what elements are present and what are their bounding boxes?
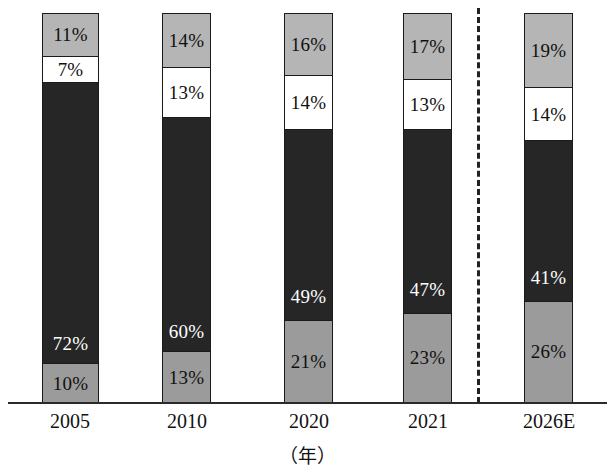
bar-segment-label: 47%: [410, 280, 445, 299]
bar-column-2010[interactable]: 14% 13% 60% 13%: [162, 13, 211, 402]
bar-segment-label: 21%: [291, 352, 326, 371]
bar-segment-label: 17%: [410, 37, 445, 56]
bar-segment-label: 41%: [531, 268, 566, 287]
bar-segment-label: 13%: [169, 368, 204, 387]
bar-segment-2026E-top[interactable]: 19%: [524, 13, 573, 87]
bar-segment-2010-lower-mid[interactable]: 60%: [162, 118, 211, 351]
bar-segment-2010-bottom[interactable]: 13%: [162, 351, 211, 402]
bar-segment-2020-top[interactable]: 16%: [284, 13, 333, 75]
bar-segment-2021-upper-mid[interactable]: 13%: [403, 79, 452, 130]
plot-area: 11% 7% 72% 10% 14% 13% 60% 13%: [0, 0, 615, 403]
bar-column-2026E[interactable]: 19% 14% 41% 26%: [524, 13, 573, 402]
bar-column-2005[interactable]: 11% 7% 72% 10%: [42, 13, 99, 402]
bar-segment-label: 16%: [291, 35, 326, 54]
bar-column-2021[interactable]: 17% 13% 47% 23%: [403, 13, 452, 402]
bar-segment-2020-upper-mid[interactable]: 14%: [284, 75, 333, 129]
bar-segment-2026E-lower-mid[interactable]: 41%: [524, 141, 573, 300]
bar-segment-2005-bottom[interactable]: 10%: [42, 363, 99, 402]
bar-segment-2021-lower-mid[interactable]: 47%: [403, 130, 452, 313]
bar-segment-label: 11%: [53, 25, 88, 44]
bar-segment-label: 49%: [291, 287, 326, 306]
bar-segment-2005-lower-mid[interactable]: 72%: [42, 83, 99, 363]
x-axis-tick-labels: 2005 2010 2020 2021 2026E: [0, 410, 615, 440]
x-axis-unit-label: （年）: [0, 441, 615, 468]
bar-segment-label: 14%: [291, 93, 326, 112]
bar-segment-label: 72%: [53, 334, 88, 353]
bar-segment-label: 60%: [169, 322, 204, 341]
bar-segment-2021-top[interactable]: 17%: [403, 13, 452, 79]
x-tick-2005: 2005: [30, 410, 110, 433]
bar-segment-2026E-upper-mid[interactable]: 14%: [524, 87, 573, 141]
x-tick-2020: 2020: [269, 410, 349, 433]
bar-segment-label: 10%: [53, 374, 88, 393]
x-axis-baseline: [8, 402, 607, 404]
x-tick-2026E: 2026E: [508, 410, 590, 433]
x-tick-2021: 2021: [388, 410, 468, 433]
bar-segment-2020-bottom[interactable]: 21%: [284, 320, 333, 402]
forecast-divider-line: [477, 8, 480, 403]
bar-segment-2020-lower-mid[interactable]: 49%: [284, 130, 333, 321]
bar-segment-2005-upper-mid[interactable]: 7%: [42, 56, 99, 83]
bar-segment-label: 19%: [531, 41, 566, 60]
bar-segment-label: 13%: [169, 83, 204, 102]
bar-column-2020[interactable]: 16% 14% 49% 21%: [284, 13, 333, 402]
x-tick-2010: 2010: [147, 410, 227, 433]
bar-segment-label: 26%: [531, 342, 566, 361]
bar-segment-2026E-bottom[interactable]: 26%: [524, 301, 573, 402]
bar-segment-2021-bottom[interactable]: 23%: [403, 313, 452, 402]
bar-segment-label: 23%: [410, 348, 445, 367]
bar-segment-2010-upper-mid[interactable]: 13%: [162, 67, 211, 118]
bar-segment-2010-top[interactable]: 14%: [162, 13, 211, 67]
bar-segment-label: 14%: [169, 31, 204, 50]
bar-segment-label: 14%: [531, 105, 566, 124]
bar-segment-2005-top[interactable]: 11%: [42, 13, 99, 56]
bar-segment-label: 7%: [58, 60, 84, 79]
stacked-bar-chart: 11% 7% 72% 10% 14% 13% 60% 13%: [0, 0, 615, 474]
bar-segment-label: 13%: [410, 95, 445, 114]
